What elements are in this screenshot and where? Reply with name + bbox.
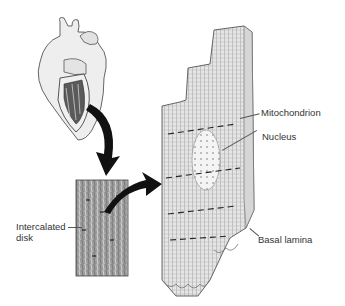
label-mitochondrion: Mitochondrion — [261, 107, 321, 118]
leader-intercalated-disk — [68, 227, 82, 228]
label-nucleus: Nucleus — [262, 131, 296, 142]
nucleus-shape — [192, 130, 220, 190]
diagram-illustration — [0, 0, 345, 306]
heart-illustration — [38, 18, 106, 141]
fiber-block — [162, 26, 254, 296]
label-intercalated-disk-line2: disk — [16, 232, 33, 243]
label-basal-lamina: Basal lamina — [258, 234, 312, 245]
label-intercalated-disk-line1: Intercalated — [16, 221, 66, 232]
diagram-canvas: Mitochondrion Nucleus Intercalated disk … — [0, 0, 345, 306]
